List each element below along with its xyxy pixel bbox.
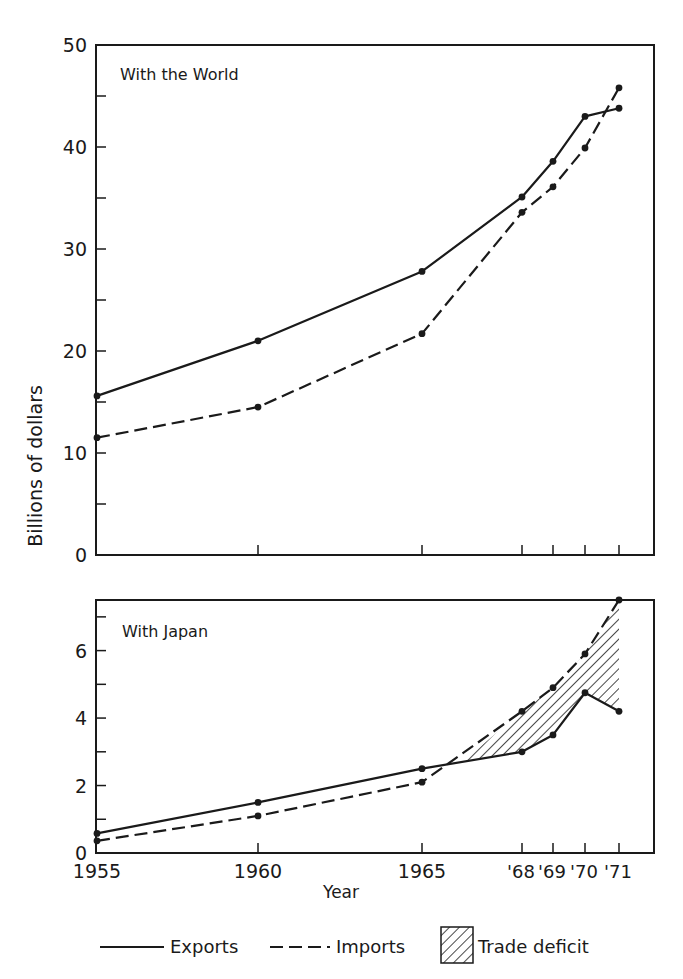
data-point: [550, 158, 557, 165]
x-tick-label: 1960: [234, 860, 282, 882]
data-point: [582, 689, 589, 696]
x-tick-label: '70: [570, 861, 598, 882]
y-tick-label: 40: [63, 136, 87, 158]
legend-deficit-label: Trade deficit: [477, 936, 589, 957]
series-exports-line: [97, 108, 619, 396]
data-point: [94, 830, 101, 837]
data-point: [550, 684, 557, 691]
data-point: [255, 404, 262, 411]
y-axis-world: 01020304050: [63, 34, 106, 566]
x-tick-label: '68: [507, 861, 535, 882]
x-tick-label: 1955: [73, 860, 121, 882]
data-point: [519, 194, 526, 201]
y-tick-label: 4: [75, 707, 87, 729]
data-point: [419, 779, 426, 786]
x-axis-label: Year: [322, 882, 359, 902]
data-point: [419, 765, 426, 772]
data-point: [94, 837, 101, 844]
data-point: [419, 330, 426, 337]
y-tick-label: 6: [75, 640, 87, 662]
y-tick-label: 2: [75, 775, 87, 797]
data-point: [519, 748, 526, 755]
data-point: [616, 708, 623, 715]
chart-figure: Billions of dollars With the World 01020…: [0, 0, 683, 979]
data-point: [94, 434, 101, 441]
y-axis-japan: 0246: [75, 617, 106, 864]
data-point: [519, 209, 526, 216]
legend: Exports Imports Trade deficit: [100, 927, 589, 963]
data-point: [255, 812, 262, 819]
legend-imports-label: Imports: [336, 936, 405, 957]
y-tick-label: 20: [63, 340, 87, 362]
data-point: [616, 597, 623, 604]
x-ticks-japan: [258, 843, 619, 853]
data-point: [94, 392, 101, 399]
data-point: [519, 708, 526, 715]
data-point: [419, 268, 426, 275]
data-point: [550, 732, 557, 739]
x-tick-labels: 195519601965'68'69'70'71: [73, 860, 632, 882]
data-point: [582, 113, 589, 120]
plot-frame-world: [96, 45, 654, 555]
data-point: [616, 84, 623, 91]
y-tick-label: 50: [63, 34, 87, 56]
data-point: [616, 105, 623, 112]
data-point: [255, 799, 262, 806]
data-point: [255, 337, 262, 344]
series-world: [94, 84, 623, 441]
y-axis-label: Billions of dollars: [24, 385, 46, 547]
data-point: [582, 651, 589, 658]
y-tick-label: 10: [63, 442, 87, 464]
x-ticks-world: [258, 545, 619, 555]
x-tick-label: 1965: [398, 860, 446, 882]
y-tick-label: 0: [75, 544, 87, 566]
series-imports-line: [97, 88, 619, 438]
data-point: [550, 183, 557, 190]
y-tick-label: 30: [63, 238, 87, 260]
panel-title-world: With the World: [120, 65, 239, 84]
panel-title-japan: With Japan: [122, 622, 208, 641]
data-point: [582, 145, 589, 152]
legend-exports-label: Exports: [170, 936, 238, 957]
legend-deficit-swatch: [441, 927, 473, 963]
x-tick-label: '69: [538, 861, 566, 882]
panel-world: With the World 01020304050: [63, 34, 654, 566]
panel-japan: With Japan 0246 195519601965'68'69'70'71: [73, 597, 654, 882]
x-tick-label: '71: [604, 861, 632, 882]
